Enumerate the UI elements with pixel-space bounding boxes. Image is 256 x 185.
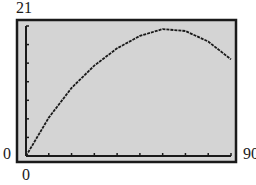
chart-canvas xyxy=(0,0,256,185)
plot-frame xyxy=(17,20,236,162)
